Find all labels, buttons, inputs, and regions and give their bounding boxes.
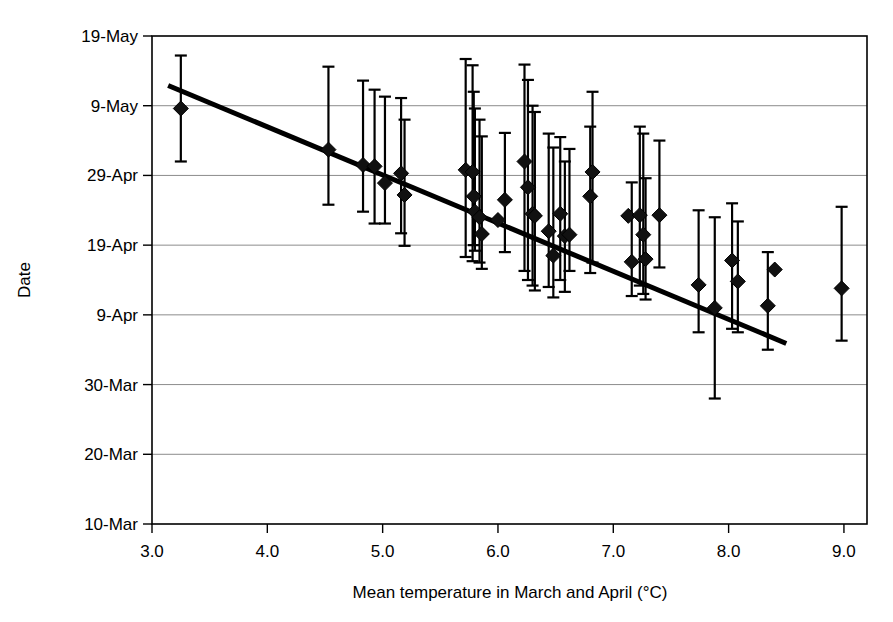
data-point-marker [760, 298, 775, 313]
x-tick-label: 7.0 [601, 542, 625, 561]
y-tick-label: 19-Apr [87, 236, 138, 255]
data-point-marker [173, 101, 188, 116]
data-point-marker [652, 208, 667, 223]
y-tick-label: 10-Mar [84, 515, 138, 534]
data-point-marker [474, 226, 489, 241]
y-tick-label: 19-May [81, 27, 138, 46]
y-axis-title: Date [15, 262, 34, 298]
y-tick-label: 9-Apr [96, 306, 138, 325]
x-tick-label: 8.0 [717, 542, 741, 561]
x-tick-label: 5.0 [371, 542, 395, 561]
data-point-marker [497, 192, 512, 207]
chart-canvas: 10-Mar20-Mar30-Mar9-Apr19-Apr29-Apr9-May… [0, 0, 893, 622]
gridlines-group [152, 106, 867, 455]
x-tick-label: 9.0 [832, 542, 856, 561]
x-tick-label: 4.0 [256, 542, 280, 561]
y-tick-label: 30-Mar [84, 376, 138, 395]
data-point-marker [767, 262, 782, 277]
data-point-marker [636, 227, 651, 242]
data-point-marker [397, 187, 412, 202]
y-tick-marks-group [143, 36, 152, 524]
x-axis-title: Mean temperature in March and April (°C) [353, 583, 668, 602]
x-tick-label: 3.0 [140, 542, 164, 561]
data-point-marker [691, 277, 706, 292]
data-point-marker [624, 254, 639, 269]
x-tick-labels-group: 3.04.05.06.07.08.09.0 [140, 542, 856, 561]
scatter-chart-figure: 10-Mar20-Mar30-Mar9-Apr19-Apr29-Apr9-May… [0, 0, 893, 622]
data-point-marker [517, 154, 532, 169]
x-tick-marks-group [152, 524, 844, 533]
data-point-marker [834, 281, 849, 296]
data-point-marker [585, 164, 600, 179]
y-tick-label: 9-May [91, 97, 139, 116]
data-point-marker [583, 189, 598, 204]
y-tick-label: 29-Apr [87, 166, 138, 185]
y-tick-labels-group: 10-Mar20-Mar30-Mar9-Apr19-Apr29-Apr9-May… [81, 27, 138, 534]
y-tick-label: 20-Mar [84, 445, 138, 464]
plot-frame [152, 36, 867, 524]
x-tick-label: 6.0 [486, 542, 510, 561]
data-markers-group [173, 101, 849, 315]
